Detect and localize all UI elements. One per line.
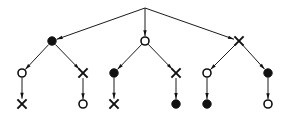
node-filled-circle[interactable] [264, 69, 272, 77]
edge-layer [20, 8, 269, 99]
edge-arrowhead [112, 93, 115, 99]
node-layer [17, 36, 272, 108]
edge-arrowhead [174, 93, 177, 99]
edge-arrowhead [20, 93, 23, 99]
node-filled-circle[interactable] [48, 37, 56, 45]
node-open-circle[interactable] [79, 100, 87, 108]
node-filled-circle[interactable] [172, 100, 180, 108]
tree-edge [57, 8, 145, 39]
tree-canvas [0, 0, 291, 117]
tree-edge [145, 8, 234, 39]
edge-arrowhead [81, 93, 84, 99]
node-cross-mark[interactable] [234, 36, 243, 45]
node-cross-mark[interactable] [17, 99, 26, 108]
node-filled-circle[interactable] [203, 100, 211, 108]
node-filled-circle[interactable] [110, 69, 118, 77]
edge-arrowhead [266, 93, 269, 99]
edge-arrowhead [205, 93, 208, 99]
node-open-circle[interactable] [18, 69, 26, 77]
node-open-circle[interactable] [264, 100, 272, 108]
edge-arrowhead [57, 36, 63, 40]
node-cross-mark[interactable] [109, 99, 118, 108]
node-open-circle[interactable] [141, 37, 149, 45]
edge-arrowhead [143, 30, 146, 36]
tree-diagram: Directed tree diagram [0, 0, 291, 117]
node-open-circle[interactable] [203, 69, 211, 77]
node-cross-mark[interactable] [78, 68, 87, 77]
edge-arrowhead [228, 36, 234, 40]
node-cross-mark[interactable] [171, 68, 180, 77]
